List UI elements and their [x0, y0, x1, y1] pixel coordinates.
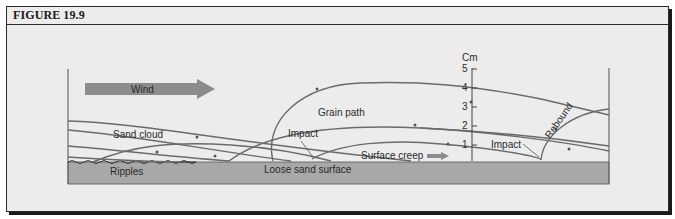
ripples-label: Ripples	[110, 166, 143, 177]
surface-creep-label: Surface creep	[361, 150, 424, 161]
impact-label-left: Impact	[288, 128, 318, 139]
loose-sand-surface-label: Loose sand surface	[264, 164, 352, 175]
rebound-label: Rebound	[543, 101, 575, 141]
scale-tick-1: 1	[462, 139, 468, 150]
scale-tick-3: 3	[462, 101, 468, 112]
sand-cloud-label: Sand cloud	[113, 129, 163, 140]
scale-tick-4: 4	[462, 82, 468, 93]
impact-label-right: Impact	[491, 139, 521, 150]
saltation-diagram: Wind	[7, 7, 668, 211]
scale-tick-5: 5	[462, 63, 468, 74]
grain-path-label: Grain path	[318, 107, 365, 118]
surface-creep-arrow-icon	[427, 152, 449, 160]
figure-frame: FIGURE 19.9 Wind	[6, 6, 669, 212]
scale-tick-2: 2	[462, 120, 468, 131]
scale-unit: Cm	[462, 52, 478, 63]
wind-label: Wind	[131, 84, 154, 95]
